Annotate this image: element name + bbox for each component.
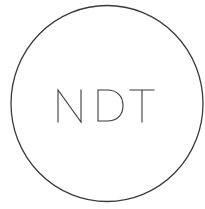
logo-graphic: NDT xyxy=(0,0,205,209)
logo-circle xyxy=(11,6,203,202)
letter-t xyxy=(130,90,154,122)
letter-d xyxy=(98,90,123,121)
letter-n xyxy=(58,90,81,122)
ndt-logo: NDT xyxy=(0,0,205,209)
logo-letters xyxy=(58,90,154,122)
